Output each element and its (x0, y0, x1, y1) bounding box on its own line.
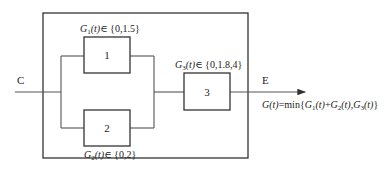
component-1-label: 1 (104, 49, 110, 61)
component-3: 3 (184, 73, 230, 110)
output-label: E (262, 74, 269, 86)
component-1-state: G1(t)∈ {0,1.5} (80, 23, 140, 36)
system-diagram: C E 1 G1(t)∈ {0,1.5} 2 G2(t)∈ {0,2} 3 G3… (0, 0, 388, 178)
component-3-label: 3 (204, 86, 210, 98)
component-2-state: G2(t)∈ {0,2} (84, 149, 136, 162)
component-2-label: 2 (104, 122, 110, 134)
component-3-state: G3(t)∈ {0,1.8,4} (175, 59, 242, 72)
input-label: C (17, 74, 24, 86)
component-1: 1 (84, 37, 130, 73)
component-2: 2 (84, 110, 130, 146)
output-formula: G(t)=min{G1(t)+G2(t),G3(t)} (262, 99, 378, 112)
